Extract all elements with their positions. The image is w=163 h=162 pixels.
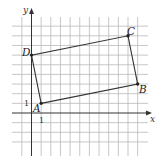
x-axis-label: x	[150, 114, 155, 124]
quadrilateral-outline	[32, 36, 138, 104]
vertex-c-label: C	[127, 25, 135, 37]
coordinate-diagram: x y 1 1 A B C D	[0, 0, 163, 162]
vertex-b-label: B	[138, 83, 147, 95]
vertex-a-label: A	[32, 102, 41, 114]
diagram-canvas: x y 1 1 A B C D	[0, 0, 163, 162]
y-axis-label: y	[22, 5, 29, 15]
y-unit-tick-label: 1	[24, 99, 29, 108]
quadrilateral-abcd	[32, 36, 138, 104]
vertex-d-label: D	[21, 46, 31, 58]
y-axis-arrow-icon	[29, 8, 34, 14]
x-unit-tick-label: 1	[39, 116, 44, 125]
